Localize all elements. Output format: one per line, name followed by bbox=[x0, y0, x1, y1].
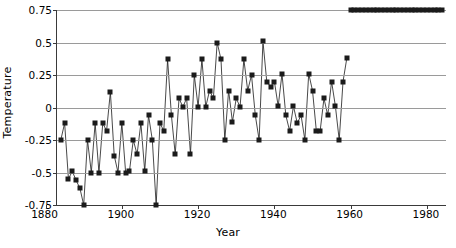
data-point-marker bbox=[188, 152, 193, 157]
data-point-marker bbox=[131, 138, 136, 143]
data-point-marker bbox=[321, 96, 326, 101]
data-point-marker bbox=[241, 57, 246, 62]
data-point-marker bbox=[249, 73, 254, 78]
data-point-marker bbox=[318, 128, 323, 133]
data-point-marker bbox=[257, 138, 262, 143]
data-point-marker bbox=[108, 89, 113, 94]
y-axis-tick-mark bbox=[53, 140, 57, 141]
data-point-marker bbox=[58, 138, 63, 143]
x-axis-tick-label: 1980 bbox=[413, 208, 440, 220]
data-point-marker bbox=[165, 57, 170, 62]
data-point-marker bbox=[283, 113, 288, 118]
data-point-marker bbox=[100, 121, 105, 126]
gridline bbox=[57, 43, 446, 44]
data-point-marker bbox=[234, 96, 239, 101]
data-point-marker bbox=[287, 128, 292, 133]
data-point-marker bbox=[218, 57, 223, 62]
y-axis-tick-label: 0.5 bbox=[18, 38, 52, 48]
data-point-marker bbox=[112, 153, 117, 158]
x-axis-tick-labels: 188019001920194019601980 bbox=[0, 208, 456, 222]
data-point-marker bbox=[253, 113, 258, 118]
x-axis-tick-label: 1900 bbox=[107, 208, 134, 220]
y-axis-tick-label: 0.75 bbox=[18, 5, 52, 15]
y-axis-tick-mark bbox=[53, 173, 57, 174]
data-point-marker bbox=[337, 138, 342, 143]
data-point-marker bbox=[325, 113, 330, 118]
y-axis-tick-mark bbox=[53, 205, 57, 206]
y-axis-tick-mark bbox=[53, 108, 57, 109]
data-point-marker bbox=[74, 178, 79, 183]
temperature-line-chart: Temperature 0.750.50.250-0.25-0.5-0.75 1… bbox=[0, 0, 456, 248]
data-point-marker bbox=[196, 104, 201, 109]
x-axis-tick-label: 1880 bbox=[31, 208, 58, 220]
data-point-marker bbox=[295, 121, 300, 126]
data-point-marker bbox=[299, 113, 304, 118]
data-point-marker bbox=[150, 138, 155, 143]
data-point-marker bbox=[291, 104, 296, 109]
data-point-marker bbox=[440, 8, 445, 13]
data-point-marker bbox=[180, 104, 185, 109]
data-point-marker bbox=[211, 96, 216, 101]
data-point-marker bbox=[127, 169, 132, 174]
data-point-marker bbox=[116, 170, 121, 175]
data-point-marker bbox=[85, 138, 90, 143]
data-point-marker bbox=[161, 128, 166, 133]
data-point-marker bbox=[146, 113, 151, 118]
data-point-marker bbox=[199, 57, 204, 62]
data-point-marker bbox=[226, 88, 231, 93]
data-point-marker bbox=[89, 170, 94, 175]
data-point-marker bbox=[276, 104, 281, 109]
y-axis-tick-label: -0.5 bbox=[18, 168, 52, 178]
data-point-marker bbox=[66, 177, 71, 182]
x-axis-tick-label: 1960 bbox=[336, 208, 363, 220]
data-point-marker bbox=[142, 169, 147, 174]
data-point-marker bbox=[272, 79, 277, 84]
data-point-marker bbox=[81, 203, 86, 208]
data-point-marker bbox=[169, 113, 174, 118]
data-point-marker bbox=[302, 138, 307, 143]
data-point-marker bbox=[230, 119, 235, 124]
data-point-marker bbox=[62, 121, 67, 126]
data-point-marker bbox=[310, 88, 315, 93]
data-point-marker bbox=[280, 71, 285, 76]
data-point-marker bbox=[119, 121, 124, 126]
y-axis-tick-label: -0.25 bbox=[18, 135, 52, 145]
data-point-marker bbox=[245, 88, 250, 93]
y-axis-tick-label: 0.25 bbox=[18, 70, 52, 80]
data-point-marker bbox=[184, 96, 189, 101]
data-point-marker bbox=[93, 121, 98, 126]
data-point-marker bbox=[344, 56, 349, 61]
y-axis-tick-labels: 0.750.50.250-0.25-0.5-0.75 bbox=[14, 0, 52, 210]
y-axis-tick-label: 0 bbox=[18, 103, 52, 113]
y-axis-tick-mark bbox=[53, 10, 57, 11]
data-point-marker bbox=[104, 128, 109, 133]
data-point-marker bbox=[177, 96, 182, 101]
data-point-marker bbox=[329, 79, 334, 84]
x-axis-tick-label: 1940 bbox=[260, 208, 287, 220]
data-point-marker bbox=[268, 84, 273, 89]
y-axis-tick-mark bbox=[53, 75, 57, 76]
x-axis-title: Year bbox=[0, 226, 456, 239]
data-point-marker bbox=[222, 138, 227, 143]
data-point-marker bbox=[260, 39, 265, 44]
data-point-marker bbox=[173, 152, 178, 157]
data-point-marker bbox=[138, 121, 143, 126]
plot-area bbox=[56, 10, 446, 206]
data-point-marker bbox=[154, 203, 159, 208]
data-point-marker bbox=[215, 40, 220, 45]
data-point-marker bbox=[70, 169, 75, 174]
gridline bbox=[57, 140, 446, 141]
data-point-marker bbox=[77, 186, 82, 191]
data-point-marker bbox=[135, 152, 140, 157]
y-axis-tick-mark bbox=[53, 43, 57, 44]
data-point-marker bbox=[203, 104, 208, 109]
data-point-marker bbox=[192, 73, 197, 78]
data-point-marker bbox=[207, 88, 212, 93]
x-axis-tick-label: 1920 bbox=[184, 208, 211, 220]
data-point-marker bbox=[333, 104, 338, 109]
data-point-marker bbox=[96, 170, 101, 175]
data-point-marker bbox=[306, 71, 311, 76]
y-axis-title-text: Temperature bbox=[2, 67, 15, 139]
data-point-marker bbox=[238, 104, 243, 109]
gridline bbox=[57, 108, 446, 109]
